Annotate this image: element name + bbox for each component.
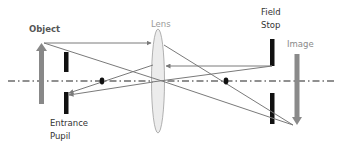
lens-label: Lens xyxy=(151,19,171,29)
object-arrow xyxy=(36,43,47,104)
field-stop-label-line2: Stop xyxy=(261,20,280,30)
optics-diagram: Object Lens Field Stop Image Entrance Pu… xyxy=(0,0,340,155)
image-arrow xyxy=(292,54,302,125)
focal-point-right xyxy=(224,78,229,85)
entrance-pupil-bottom-bar xyxy=(64,92,69,114)
image-label: Image xyxy=(287,39,314,49)
focal-point-left xyxy=(100,78,105,85)
entrance-pupil-label-line1: Entrance xyxy=(50,118,88,128)
field-stop-top-bar xyxy=(270,39,275,66)
rays xyxy=(44,43,293,125)
field-stop-bottom-bar xyxy=(270,93,275,124)
object-label: Object xyxy=(29,24,60,34)
entrance-pupil-label-line2: Pupil xyxy=(50,131,70,141)
field-stop-label-line1: Field xyxy=(261,7,281,17)
entrance-pupil-top-bar xyxy=(64,52,69,72)
